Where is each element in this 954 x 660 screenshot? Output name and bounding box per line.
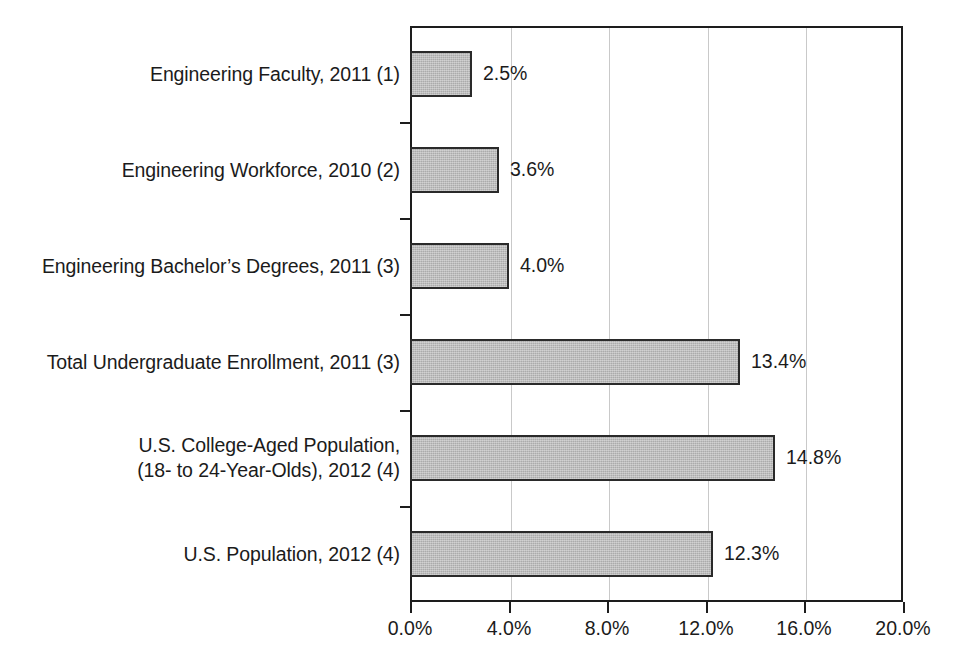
x-axis-tick-label: 8.0% [585, 616, 629, 640]
bar [410, 531, 713, 577]
bar [410, 147, 499, 193]
x-axis-tick [607, 602, 609, 613]
x-axis-tick [410, 602, 412, 613]
bar-chart: Engineering Faculty, 2011 (1)2.5%Enginee… [0, 0, 954, 660]
chart-row: U.S. Population, 2012 (4)12.3% [0, 506, 954, 602]
x-axis-tick [804, 602, 806, 613]
bar-value-label: 14.8% [786, 448, 841, 468]
chart-row: U.S. College-Aged Population, (18- to 24… [0, 410, 954, 506]
chart-row: Engineering Bachelor’s Degrees, 2011 (3)… [0, 218, 954, 314]
bar-value-label: 2.5% [483, 64, 527, 84]
bar-value-label: 4.0% [520, 256, 564, 276]
bar [410, 243, 509, 289]
chart-rows: Engineering Faculty, 2011 (1)2.5%Enginee… [0, 26, 954, 602]
category-label: Engineering Workforce, 2010 (2) [20, 158, 400, 183]
x-axis-tick-label: 4.0% [487, 616, 531, 640]
x-axis-tick-label: 0.0% [388, 616, 432, 640]
bar-value-label: 13.4% [751, 352, 806, 372]
bar-group: 3.6% [410, 147, 554, 193]
bar [410, 339, 740, 385]
category-label: U.S. College-Aged Population, (18- to 24… [20, 433, 400, 483]
category-label: Total Undergraduate Enrollment, 2011 (3) [20, 350, 400, 375]
bar-group: 12.3% [410, 531, 779, 577]
bar-group: 4.0% [410, 243, 564, 289]
x-axis-tick [509, 602, 511, 613]
chart-row: Total Undergraduate Enrollment, 2011 (3)… [0, 314, 954, 410]
x-axis-labels: 0.0%4.0%8.0%12.0%16.0%20.0% [0, 616, 954, 646]
chart-row: Engineering Faculty, 2011 (1)2.5% [0, 26, 954, 122]
x-axis-tick [903, 602, 905, 613]
bar-group: 13.4% [410, 339, 806, 385]
bar-value-label: 12.3% [724, 544, 779, 564]
category-label: Engineering Bachelor’s Degrees, 2011 (3) [20, 254, 400, 279]
chart-row: Engineering Workforce, 2010 (2)3.6% [0, 122, 954, 218]
x-axis-tick-label: 16.0% [776, 616, 831, 640]
x-axis-tick-label: 12.0% [678, 616, 733, 640]
bar-group: 14.8% [410, 435, 841, 481]
bar [410, 51, 472, 97]
bar-group: 2.5% [410, 51, 527, 97]
category-label: U.S. Population, 2012 (4) [20, 542, 400, 567]
bar [410, 435, 775, 481]
category-label: Engineering Faculty, 2011 (1) [20, 62, 400, 87]
x-axis-tick-label: 20.0% [875, 616, 930, 640]
bar-value-label: 3.6% [510, 160, 554, 180]
x-axis-tick [706, 602, 708, 613]
